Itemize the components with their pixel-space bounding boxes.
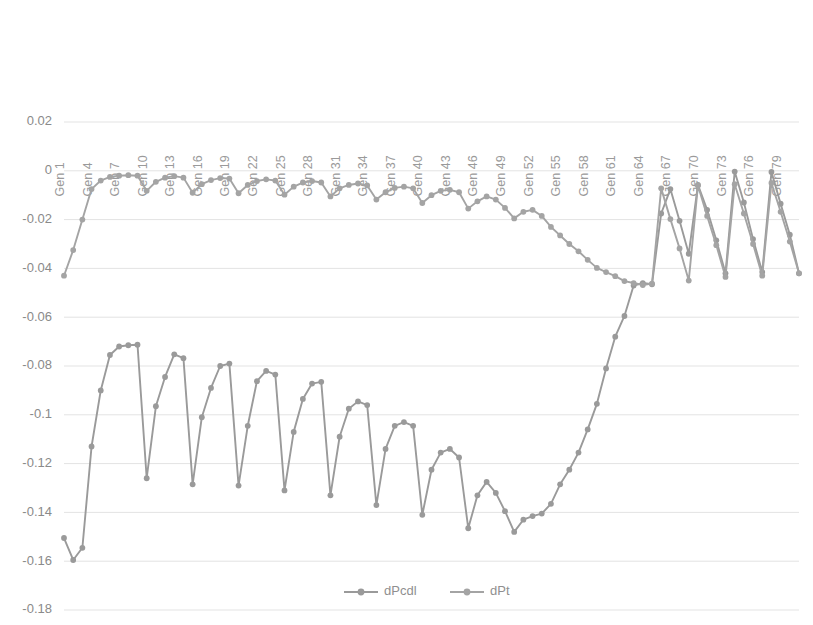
data-point-dPcdl: [520, 517, 526, 523]
data-point-dPt: [622, 278, 628, 284]
data-point-dPt: [456, 189, 462, 195]
data-point-dPt: [190, 190, 196, 196]
data-point-dPt: [181, 175, 187, 181]
data-point-dPcdl: [392, 423, 398, 429]
y-axis-tick-label: -0.18: [22, 601, 52, 616]
data-point-dPcdl: [456, 455, 462, 461]
data-point-dPt: [208, 177, 214, 183]
chart-background: [0, 0, 813, 625]
data-point-dPt: [98, 178, 104, 184]
data-point-dPt: [162, 175, 168, 181]
data-point-dPt: [89, 186, 95, 192]
x-axis-tick-label: Gen 46: [466, 155, 480, 196]
y-axis-tick-label: 0.02: [27, 113, 52, 128]
y-axis-tick-label: -0.04: [22, 260, 52, 275]
legend-label-dPcdl: dPcdl: [384, 583, 417, 598]
data-point-dPt: [318, 180, 324, 186]
data-point-dPcdl: [171, 351, 177, 357]
data-point-dPcdl: [355, 398, 361, 404]
data-point-dPcdl: [300, 396, 306, 402]
data-point-dPt: [741, 211, 747, 217]
data-point-dPt: [484, 194, 490, 200]
data-point-dPt: [364, 183, 370, 189]
data-point-dPt: [475, 198, 481, 204]
data-point-dPcdl: [667, 186, 673, 192]
data-point-dPt: [254, 178, 260, 184]
x-axis-tick-label: Gen 22: [246, 155, 260, 196]
y-axis-tick-label: -0.02: [22, 211, 52, 226]
data-point-dPcdl: [447, 446, 453, 452]
y-axis-tick-label: -0.16: [22, 553, 52, 568]
data-point-dPt: [520, 209, 526, 215]
data-point-dPt: [658, 185, 664, 191]
data-point-dPcdl: [622, 313, 628, 319]
data-point-dPcdl: [364, 402, 370, 408]
data-point-dPcdl: [208, 385, 214, 391]
data-point-dPcdl: [429, 467, 435, 473]
data-point-dPt: [144, 188, 150, 194]
data-point-dPt: [447, 187, 453, 193]
data-point-dPt: [539, 213, 545, 219]
data-point-dPcdl: [282, 488, 288, 494]
data-point-dPt: [695, 183, 701, 189]
data-point-dPt: [511, 215, 517, 221]
data-point-dPt: [226, 176, 232, 182]
data-point-dPcdl: [181, 355, 187, 361]
data-point-dPcdl: [199, 414, 205, 420]
data-point-dPcdl: [612, 334, 618, 340]
x-axis-tick-label: Gen 58: [577, 155, 591, 196]
data-point-dPt: [272, 178, 278, 184]
data-point-dPt: [576, 248, 582, 254]
data-point-dPt: [429, 192, 435, 198]
x-axis-tick-label: Gen 64: [632, 155, 646, 196]
data-point-dPcdl: [272, 372, 278, 378]
data-point-dPt: [79, 217, 85, 223]
data-point-dPcdl: [438, 450, 444, 456]
data-point-dPt: [346, 182, 352, 188]
data-point-dPcdl: [603, 366, 609, 372]
data-point-dPt: [530, 207, 536, 213]
data-point-dPcdl: [383, 446, 389, 452]
data-point-dPt: [337, 185, 343, 191]
data-point-dPcdl: [557, 481, 563, 487]
data-point-dPt: [107, 174, 113, 180]
data-point-dPt: [723, 274, 729, 280]
x-axis-tick-label: Gen 55: [549, 155, 563, 196]
data-point-dPt: [557, 233, 563, 239]
data-point-dPcdl: [89, 444, 95, 450]
data-point-dPcdl: [511, 529, 517, 535]
data-point-dPt: [713, 242, 719, 248]
data-point-dPcdl: [410, 423, 416, 429]
data-point-dPt: [236, 190, 242, 196]
data-point-dPt: [438, 188, 444, 194]
data-point-dPcdl: [346, 406, 352, 412]
data-point-dPt: [199, 181, 205, 187]
data-point-dPcdl: [318, 379, 324, 385]
line-chart: 0.020-0.02-0.04-0.06-0.08-0.1-0.12-0.14-…: [0, 0, 813, 625]
data-point-dPcdl: [493, 490, 499, 496]
data-point-dPcdl: [594, 401, 600, 407]
data-point-dPcdl: [328, 492, 334, 498]
data-point-dPcdl: [98, 388, 104, 394]
data-point-dPt: [373, 197, 379, 203]
data-point-dPt: [392, 185, 398, 191]
data-point-dPcdl: [585, 427, 591, 433]
data-point-dPcdl: [236, 483, 242, 489]
data-point-dPt: [778, 209, 784, 215]
data-point-dPt: [263, 176, 269, 182]
data-point-dPt: [217, 175, 223, 181]
data-point-dPt: [116, 173, 122, 179]
data-point-dPcdl: [419, 512, 425, 518]
data-point-dPt: [603, 269, 609, 275]
data-point-dPt: [125, 172, 131, 178]
data-point-dPcdl: [337, 434, 343, 440]
data-point-dPt: [171, 173, 177, 179]
data-point-dPcdl: [291, 429, 297, 435]
data-point-dPcdl: [217, 363, 223, 369]
data-point-dPcdl: [254, 378, 260, 384]
data-point-dPt: [245, 182, 251, 188]
data-point-dPcdl: [245, 423, 251, 429]
y-axis-tick-label: -0.12: [22, 455, 52, 470]
chart-container: 0.020-0.02-0.04-0.06-0.08-0.1-0.12-0.14-…: [0, 0, 813, 625]
data-point-dPt: [750, 241, 756, 247]
